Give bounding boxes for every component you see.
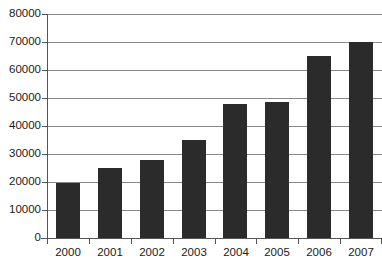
gridline bbox=[47, 42, 382, 43]
gridline bbox=[47, 98, 382, 99]
x-axis-tick bbox=[256, 239, 257, 244]
x-axis-tick bbox=[340, 239, 341, 244]
y-axis-label: 50000 bbox=[9, 92, 41, 104]
x-axis-label: 2004 bbox=[215, 247, 257, 259]
bar bbox=[307, 56, 331, 238]
x-axis-tick bbox=[298, 239, 299, 244]
y-axis-label: 30000 bbox=[9, 148, 41, 160]
bar-chart: 8000070000600005000040000300002000010000… bbox=[0, 0, 382, 267]
bar bbox=[223, 104, 247, 238]
bar bbox=[98, 168, 122, 238]
gridline bbox=[47, 14, 382, 15]
x-axis-label: 2001 bbox=[89, 247, 131, 259]
x-axis-line bbox=[41, 238, 382, 239]
bar bbox=[349, 42, 373, 238]
bar bbox=[265, 102, 289, 238]
gridline bbox=[47, 126, 382, 127]
x-axis-tick bbox=[131, 239, 132, 244]
y-axis-line bbox=[47, 14, 48, 239]
x-axis-tick bbox=[89, 239, 90, 244]
x-axis-label: 2005 bbox=[256, 247, 298, 259]
gridline bbox=[47, 70, 382, 71]
x-axis-label: 2000 bbox=[47, 247, 89, 259]
bar bbox=[56, 183, 80, 238]
x-axis-label: 2002 bbox=[131, 247, 173, 259]
x-axis-label: 2007 bbox=[340, 247, 382, 259]
bar bbox=[182, 140, 206, 238]
x-axis-label: 2006 bbox=[298, 247, 340, 259]
x-axis-tick bbox=[173, 239, 174, 244]
x-axis-tick bbox=[47, 239, 48, 244]
y-axis-label: 40000 bbox=[9, 120, 41, 132]
y-axis-label: 60000 bbox=[9, 64, 41, 76]
x-axis-label: 2003 bbox=[173, 247, 215, 259]
plot-area: 8000070000600005000040000300002000010000… bbox=[0, 0, 382, 267]
bar bbox=[140, 160, 164, 238]
gridline bbox=[47, 154, 382, 155]
y-axis-label: 20000 bbox=[9, 176, 41, 188]
y-axis-label: 10000 bbox=[9, 204, 41, 216]
x-axis-tick bbox=[215, 239, 216, 244]
y-axis-label: 80000 bbox=[9, 8, 41, 20]
y-axis-label: 70000 bbox=[9, 36, 41, 48]
